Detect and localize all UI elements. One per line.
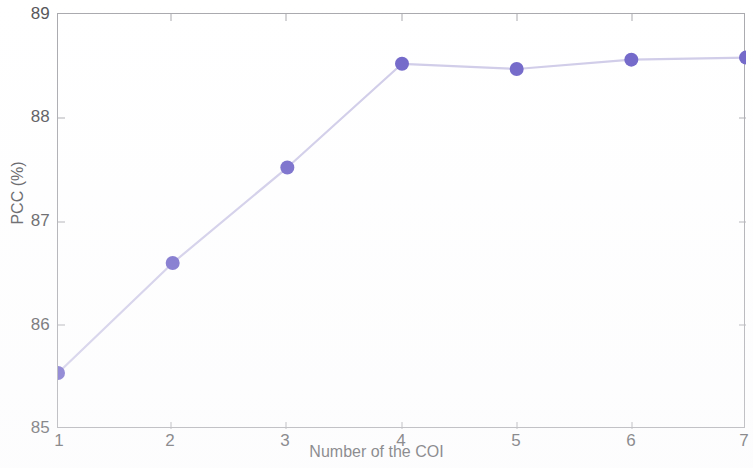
- data-point: [166, 256, 180, 270]
- y-tick-label-88: 88: [4, 108, 50, 125]
- x-axis-ticks-top: [171, 14, 632, 21]
- y-axis-ticks: [58, 118, 65, 325]
- data-series-markers: [58, 51, 746, 380]
- y-axis-ticks-right: [739, 118, 746, 325]
- data-point: [510, 62, 524, 76]
- plot-svg: [58, 14, 746, 429]
- plot-area: [57, 13, 745, 428]
- x-axis-title: Number of the COI: [0, 443, 753, 461]
- y-axis-title: PCC (%): [9, 128, 27, 258]
- data-series-line: [58, 58, 746, 373]
- data-point: [280, 161, 294, 175]
- y-tick-label-89: 89: [4, 5, 50, 22]
- x-axis-ticks: [171, 422, 632, 429]
- data-point: [624, 53, 638, 67]
- y-tick-label-86: 86: [4, 316, 50, 333]
- line-chart: 89 88 87 86 85 PCC (%): [0, 0, 753, 468]
- data-point: [395, 57, 409, 71]
- data-point: [739, 51, 746, 65]
